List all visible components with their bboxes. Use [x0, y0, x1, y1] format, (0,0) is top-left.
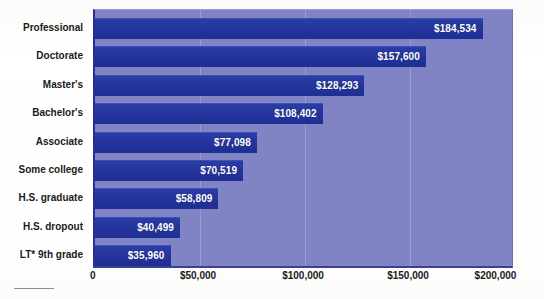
- footnote-separator-rule: [14, 288, 54, 289]
- category-label-some-college: Some college: [0, 159, 88, 180]
- bar-value-label: $108,402: [274, 108, 317, 119]
- bar: $184,534: [95, 18, 483, 39]
- bar: $128,293: [95, 75, 364, 96]
- bar-value-label: $58,809: [176, 193, 213, 204]
- bar: $58,809: [95, 188, 218, 209]
- x-axis-tick-labels: 0$50,000$100,000$150,000$200,000: [93, 270, 513, 288]
- bar-row: $157,600: [95, 46, 426, 67]
- category-label-h-s-graduate: H.S. graduate: [0, 187, 88, 208]
- bar-row: $35,960: [95, 245, 171, 266]
- bar: $77,098: [95, 132, 257, 153]
- category-label-professional: Professional: [0, 17, 88, 38]
- bar: $35,960: [95, 245, 171, 266]
- category-label-doctorate: Doctorate: [0, 45, 88, 66]
- bar-value-label: $77,098: [214, 137, 251, 148]
- x-tick-label: $150,000: [387, 270, 429, 281]
- bar-value-label: $157,600: [377, 51, 420, 62]
- category-label-h-s-dropout: H.S. dropout: [0, 216, 88, 237]
- category-label-associate: Associate: [0, 131, 88, 152]
- y-axis-category-labels: ProfessionalDoctorateMaster'sBachelor'sA…: [0, 9, 88, 268]
- plot-area: $184,534$157,600$128,293$108,402$77,098$…: [93, 9, 513, 268]
- bar-row: $58,809: [95, 188, 218, 209]
- bar-series: $184,534$157,600$128,293$108,402$77,098$…: [95, 10, 512, 266]
- bar-value-label: $35,960: [128, 250, 165, 261]
- bar-row: $184,534: [95, 18, 483, 39]
- x-tick-label: $200,000: [475, 270, 517, 281]
- bar-row: $40,499: [95, 217, 180, 238]
- x-tick-label: $100,000: [282, 270, 324, 281]
- bar-row: $70,519: [95, 160, 243, 181]
- bar-value-label: $128,293: [316, 80, 359, 91]
- bar-row: $77,098: [95, 132, 257, 153]
- bar: $157,600: [95, 46, 426, 67]
- x-tick-label: $50,000: [180, 270, 216, 281]
- horizontal-bar-chart: ProfessionalDoctorateMaster'sBachelor'sA…: [0, 0, 544, 299]
- x-tick-label: 0: [90, 270, 96, 281]
- bar-value-label: $70,519: [200, 165, 237, 176]
- bar: $108,402: [95, 103, 323, 124]
- bar-value-label: $184,534: [434, 23, 477, 34]
- category-label-master-s: Master's: [0, 74, 88, 95]
- bar-value-label: $40,499: [137, 222, 174, 233]
- bar: $70,519: [95, 160, 243, 181]
- bar-row: $128,293: [95, 75, 364, 96]
- category-label-bachelor-s: Bachelor's: [0, 102, 88, 123]
- bar: $40,499: [95, 217, 180, 238]
- category-label-lt-9th-grade: LT* 9th grade: [0, 244, 88, 265]
- bar-row: $108,402: [95, 103, 323, 124]
